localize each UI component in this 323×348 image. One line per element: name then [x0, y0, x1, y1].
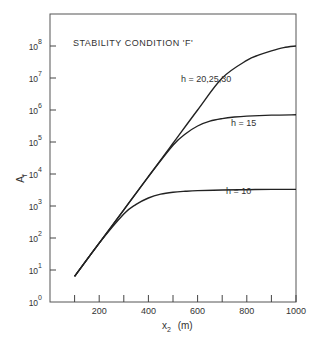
y-axis-ticks [50, 46, 56, 270]
x-axis-label-sub: 2 [167, 326, 171, 333]
series-line-2 [75, 189, 296, 276]
series-label-h15: h = 15 [231, 118, 256, 128]
y-tick-label: 107 [16, 72, 42, 84]
series-label-h20: h = 20,25,30 [181, 74, 231, 84]
chart-title: STABILITY CONDITION 'F' [73, 38, 193, 48]
x-tick-label: 400 [141, 306, 156, 316]
series-line-1 [75, 115, 296, 277]
y-tick-label: 105 [16, 136, 42, 148]
x-axis-label: x2 (m) [162, 320, 193, 333]
x-axis-label-unit: (m) [178, 320, 193, 331]
series-label-h10: h = 10 [226, 186, 251, 196]
x-tick-label: 1000 [286, 306, 306, 316]
y-tick-label: 101 [16, 264, 42, 276]
y-axis-label-sub: f [21, 174, 28, 176]
x-tick-label: 600 [190, 306, 205, 316]
y-tick-label: 100 [16, 296, 42, 308]
x-tick-label: 200 [92, 306, 107, 316]
x-axis-ticks [75, 295, 296, 302]
y-tick-label: 106 [16, 104, 42, 116]
y-tick-label: 102 [16, 232, 42, 244]
y-tick-label: 108 [16, 40, 42, 52]
y-axis-label-main: A [15, 176, 26, 183]
x-tick-label: 800 [239, 306, 254, 316]
y-axis-label: Af [15, 174, 28, 183]
chart-plot [0, 0, 323, 348]
y-tick-label: 103 [16, 200, 42, 212]
